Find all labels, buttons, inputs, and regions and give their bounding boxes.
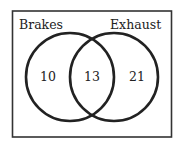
brakes-only-count: 10 bbox=[40, 69, 56, 84]
exhaust-label: Exhaust bbox=[110, 17, 161, 32]
exhaust-only-count: 21 bbox=[129, 69, 145, 84]
brakes-label: Brakes bbox=[19, 17, 63, 32]
venn-diagram: Brakes Exhaust 10 13 21 bbox=[0, 0, 183, 149]
intersection-count: 13 bbox=[84, 69, 100, 84]
